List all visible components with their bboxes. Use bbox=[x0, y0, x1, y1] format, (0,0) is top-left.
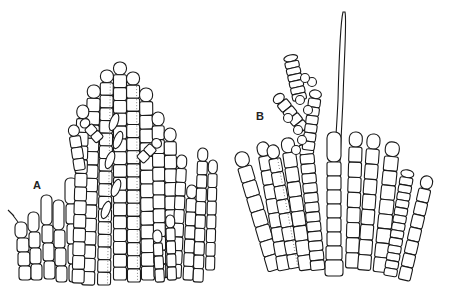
figure: A B bbox=[0, 0, 449, 298]
panel-label-b: B bbox=[256, 110, 264, 122]
algae-illustration bbox=[0, 0, 449, 298]
filament bbox=[127, 72, 141, 282]
panel-label-a: A bbox=[33, 179, 41, 191]
filament bbox=[114, 62, 127, 280]
panel-a-drawing bbox=[8, 62, 217, 285]
panel-b-drawing bbox=[233, 12, 434, 281]
filament bbox=[166, 215, 177, 280]
